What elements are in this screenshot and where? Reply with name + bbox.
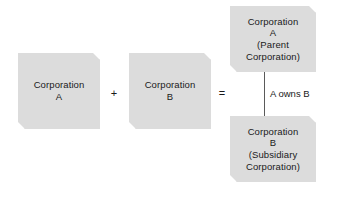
box-parent-corporation-a: Corporation A (Parent Corporation) [230, 6, 316, 72]
box-corporation-a-label: Corporation A [34, 79, 85, 102]
box-corporation-b-label: Corporation B [145, 79, 196, 102]
box-subsidiary-corporation-b: Corporation B (Subsidiary Corporation) [230, 116, 316, 182]
box-corporation-a: Corporation A [18, 53, 100, 129]
equals-operator: = [215, 88, 229, 99]
box-subsidiary-corporation-b-label: Corporation B (Subsidiary Corporation) [246, 126, 300, 172]
box-parent-corporation-a-label: Corporation A (Parent Corporation) [246, 16, 300, 62]
plus-operator: + [107, 88, 121, 99]
ownership-connector-line [264, 72, 265, 116]
ownership-label: A owns B [270, 88, 310, 99]
box-corporation-b: Corporation B [129, 53, 211, 129]
corporate-structure-diagram: Corporation A + Corporation B = Corporat… [0, 0, 337, 200]
